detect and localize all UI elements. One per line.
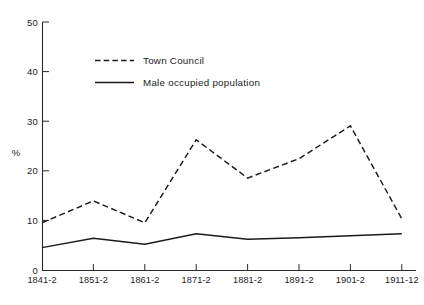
line-chart-canvas: 50 40 30 20 10 0 % 1841-2 1851-2 1861-2 … bbox=[0, 0, 424, 305]
x-tick-label-1871: 1871-2 bbox=[182, 275, 211, 285]
x-tick-label-1901: 1901-2 bbox=[336, 275, 365, 285]
y-tick-label-40: 40 bbox=[27, 66, 38, 77]
x-tick-label-1861: 1861-2 bbox=[130, 275, 159, 285]
series-line-town-council bbox=[42, 126, 402, 223]
x-tick-label-1841: 1841-2 bbox=[27, 275, 56, 285]
x-tick-label-1891: 1891-2 bbox=[284, 275, 313, 285]
y-tick-label-30: 30 bbox=[27, 116, 38, 127]
x-tick-label-1881: 1881-2 bbox=[233, 275, 262, 285]
x-tick-marks bbox=[93, 264, 401, 271]
y-tick-label-50: 50 bbox=[27, 17, 38, 28]
legend: Town Council Male occupied population bbox=[95, 55, 260, 88]
y-tick-label-0: 0 bbox=[33, 265, 38, 276]
y-tick-marks bbox=[43, 22, 50, 220]
y-tick-label-20: 20 bbox=[27, 165, 38, 176]
series-line-male-occupied-population bbox=[42, 234, 402, 248]
legend-label-male-occupied-population: Male occupied population bbox=[143, 77, 260, 88]
x-tick-label-1911: 1911-12 bbox=[385, 275, 419, 285]
y-axis-title: % bbox=[12, 147, 21, 158]
legend-label-town-council: Town Council bbox=[143, 55, 204, 66]
x-tick-label-1851: 1851-2 bbox=[79, 275, 108, 285]
y-tick-label-10: 10 bbox=[27, 215, 38, 226]
chart-figure: 50 40 30 20 10 0 % 1841-2 1851-2 1861-2 … bbox=[0, 0, 424, 305]
